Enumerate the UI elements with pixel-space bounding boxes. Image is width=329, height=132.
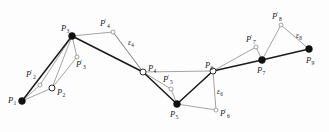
node-label-P2: P2: [57, 88, 65, 97]
node-label-P2p: P′2: [26, 70, 36, 79]
node-marker-group: [19, 23, 313, 112]
dark-edge-P7-P9: [262, 49, 309, 60]
node-label-P8p: P′8: [272, 12, 282, 21]
node-label-P4: P4: [148, 64, 156, 73]
node-marker-P3: [69, 33, 76, 40]
node-marker-P2p: [38, 83, 42, 87]
light-edge-group: [22, 25, 309, 110]
node-label-P1: P1: [8, 96, 16, 105]
epsilon-label-eps4: ε4: [128, 39, 134, 47]
node-label-P6: P6: [205, 61, 213, 70]
node-label-P5p: P′5: [163, 75, 173, 84]
label-prime-P7p: ′: [251, 33, 253, 41]
dark-edge-P6-P7: [213, 60, 262, 71]
label-subscript-P5p: 5: [170, 79, 173, 85]
label-subscript-P9: 9: [311, 60, 314, 66]
node-label-P3p: P′3: [76, 60, 86, 69]
dark-path-group: [22, 36, 309, 104]
light-edge-P6-P7p: [213, 47, 256, 71]
label-subscript-P2: 2: [62, 92, 65, 98]
label-prime-P8p: ′: [277, 10, 279, 18]
label-subscript-P8p: 8: [279, 16, 282, 22]
label-subscript-P2p: 2: [33, 74, 36, 80]
node-marker-P9: [306, 46, 313, 53]
label-prime-P5p: ′: [168, 73, 170, 81]
node-marker-P1: [19, 98, 26, 105]
epsilon-subscript-eps8: 8: [299, 35, 302, 41]
epsilon-label-eps6: ε6: [217, 88, 223, 96]
node-label-P3: P3: [61, 24, 69, 33]
label-subscript-P7p: 7: [253, 39, 256, 45]
node-label-P7: P7: [257, 66, 265, 75]
node-label-P4p: P′4: [100, 19, 110, 28]
label-subscript-P4p: 4: [107, 23, 110, 29]
light-edge-P7-P8p: [262, 25, 281, 60]
node-marker-P8p: [279, 23, 283, 27]
light-edge-P6-P6p: [213, 71, 216, 110]
label-subscript-P3: 3: [66, 28, 69, 34]
dark-edge-P5-P6: [177, 71, 213, 104]
node-label-P9: P9: [306, 56, 314, 65]
epsilon-subscript-eps6: 6: [220, 91, 223, 97]
node-marker-P4p: [111, 30, 115, 34]
node-marker-P5p: [169, 87, 173, 91]
node-marker-P6p: [214, 108, 218, 112]
node-marker-P2: [49, 85, 55, 91]
epsilon-subscript-eps4: 4: [131, 42, 134, 48]
light-edge-P8p-P9: [281, 25, 309, 49]
label-subscript-P7: 7: [262, 70, 265, 76]
node-marker-P7p: [254, 45, 258, 49]
epsilon-label-eps8: ε8: [296, 32, 302, 40]
label-subscript-P5: 5: [175, 114, 178, 120]
label-prime-P4p: ′: [105, 17, 107, 25]
label-prime-P6p: ′: [225, 107, 227, 115]
node-marker-P5: [174, 101, 181, 108]
node-label-P7p: P′7: [246, 35, 256, 44]
node-label-P5: P5: [170, 110, 178, 119]
node-marker-P7: [259, 57, 266, 64]
figure-container: P1P2P′2P3P′3P4P′4P5P′5P6P′6P7P′7P′8P9ε4ε…: [0, 0, 329, 132]
label-subscript-P6: 6: [210, 65, 213, 71]
label-subscript-P3p: 3: [83, 64, 86, 70]
light-edge-P3p-P2: [52, 57, 77, 88]
label-prime-P3p: ′: [81, 58, 83, 66]
node-label-P6p: P′6: [220, 109, 230, 118]
light-edge-P3-P4p: [72, 32, 113, 36]
node-marker-P4: [140, 69, 146, 75]
label-subscript-P1: 1: [13, 100, 16, 106]
label-subscript-P4: 4: [153, 68, 156, 74]
label-subscript-P6p: 6: [227, 113, 230, 119]
label-prime-P2p: ′: [31, 68, 33, 76]
light-edge-P6p-P5: [177, 104, 216, 110]
